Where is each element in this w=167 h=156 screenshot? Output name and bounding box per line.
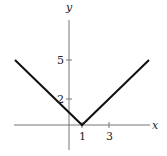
tick-label-x1: 1 (79, 130, 86, 143)
abs-value-curve (15, 60, 149, 125)
tick-label-y5: 5 (57, 54, 64, 67)
tick-label-x3: 3 (106, 130, 113, 143)
tick-label-y2: 2 (57, 93, 64, 106)
y-axis-label: y (65, 1, 73, 14)
x-axis-label: x (152, 119, 159, 132)
graph: y x 1 3 2 5 (0, 0, 167, 156)
